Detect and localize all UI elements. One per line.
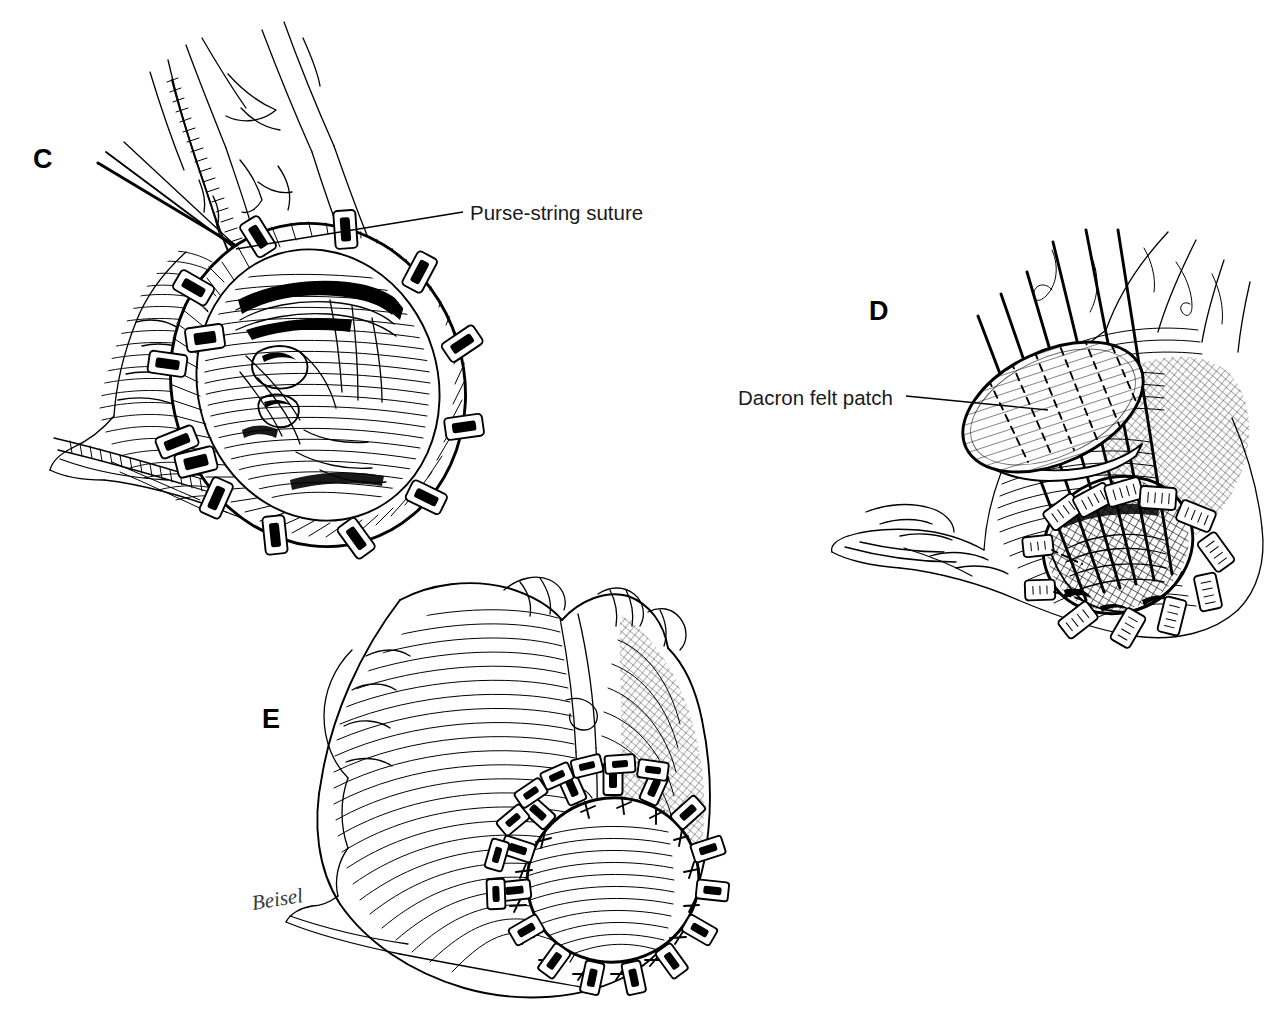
panel-letter-c: C <box>33 144 53 174</box>
purse-string-suture-label: Purse-string suture <box>470 201 643 224</box>
illustration-canvas: Purse-string suture C <box>0 0 1268 1016</box>
panel-letter-d: D <box>869 296 889 326</box>
dacron-felt-patch-label: Dacron felt patch <box>738 386 893 409</box>
panel-letter-e: E <box>262 704 280 734</box>
surgical-figure: Purse-string suture C <box>0 0 1268 1016</box>
